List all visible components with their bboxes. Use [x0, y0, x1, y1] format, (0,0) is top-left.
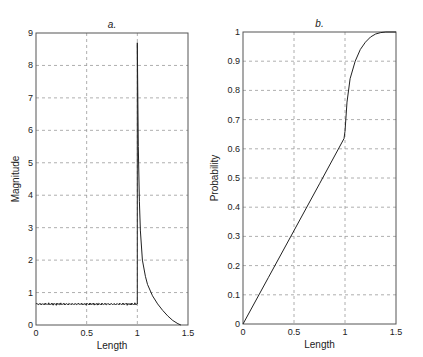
- y-tick-label: 5: [28, 158, 33, 168]
- y-tick-label: 0.7: [227, 115, 240, 125]
- y-tick-label: 0: [28, 320, 33, 330]
- chart-title: b.: [315, 18, 323, 29]
- x-axis-label: Length: [97, 340, 128, 351]
- x-axis-label: Length: [304, 339, 335, 350]
- chart-title: a.: [108, 19, 116, 30]
- x-tick-label: 1.5: [182, 328, 195, 338]
- x-tick-label: 0.5: [80, 328, 93, 338]
- y-tick-label: 4: [28, 190, 33, 200]
- series-line: [36, 43, 181, 325]
- y-tick-label: 0.1: [227, 290, 240, 300]
- x-tick-label: 0.5: [288, 327, 301, 337]
- y-tick-label: 0.4: [227, 202, 240, 212]
- y-tick-label: 8: [28, 60, 33, 70]
- y-tick-label: 0.2: [227, 261, 240, 271]
- y-tick-label: 7: [28, 93, 33, 103]
- y-axis-label: Probability: [209, 155, 220, 202]
- y-tick-label: 0.8: [227, 85, 240, 95]
- y-tick-label: 2: [28, 255, 33, 265]
- y-tick-label: 6: [28, 125, 33, 135]
- y-tick-label: 0.3: [227, 231, 240, 241]
- y-tick-label: 9: [28, 28, 33, 38]
- y-tick-label: 0.6: [227, 144, 240, 154]
- axes-frame: [36, 33, 188, 325]
- chart-panel-b: 00.511.500.10.20.30.40.50.60.70.80.91b.L…: [209, 18, 402, 350]
- axes-frame: [243, 32, 396, 324]
- x-tick-label: 1.5: [390, 327, 403, 337]
- chart-panel-a: 00.511.50123456789a.LengthMagnitude: [10, 19, 194, 351]
- x-tick-label: 1: [342, 327, 347, 337]
- y-tick-label: 0.5: [227, 173, 240, 183]
- figure: 00.511.50123456789a.LengthMagnitude00.51…: [0, 0, 423, 357]
- series-line: [243, 32, 396, 324]
- y-tick-label: 0: [235, 319, 240, 329]
- y-tick-label: 3: [28, 223, 33, 233]
- y-tick-label: 1: [235, 27, 240, 37]
- y-tick-label: 0.9: [227, 56, 240, 66]
- x-tick-label: 1: [135, 328, 140, 338]
- x-tick-label: 0: [240, 327, 245, 337]
- x-tick-label: 0: [33, 328, 38, 338]
- y-axis-label: Magnitude: [10, 155, 21, 202]
- y-tick-label: 1: [28, 288, 33, 298]
